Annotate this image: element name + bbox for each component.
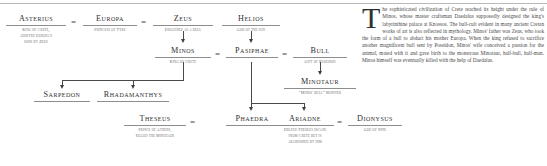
node-caption [34, 102, 90, 104]
marriage-symbol-europa-zeus: = [141, 18, 146, 27]
node-name: Dionysus [348, 115, 402, 125]
node-sarpedon: Sarpedon [34, 91, 90, 103]
node-phaedra: Phaedra [226, 115, 278, 127]
marriage-symbol-asterius-europa: = [71, 18, 76, 27]
node-caption [226, 126, 278, 128]
arrowhead-helios-pasiphae [249, 39, 253, 43]
node-caption: God of wine [348, 126, 402, 133]
node-name: Zeus [153, 15, 213, 25]
arrowhead-ariadne [302, 107, 306, 111]
sibling-bar-pasiphae-children [251, 103, 304, 104]
arrowhead-zeus-minos [181, 39, 185, 43]
node-pasiphae: Pasiphae [226, 47, 278, 59]
arrowhead-phaedra [249, 107, 253, 111]
node-europa: Europa Princess of Tyre [83, 15, 137, 33]
family-tree-diagram: Asterius King of Crete, adopted Europa's… [0, 0, 358, 166]
node-caption: Prince of Athens, killed the Minotaur [124, 126, 186, 139]
genealogy-figure: Asterius King of Crete, adopted Europa's… [0, 0, 547, 166]
node-dionysus: Dionysus God of wine [348, 115, 402, 133]
node-name: Phaedra [226, 115, 278, 125]
marriage-symbol-theseus-phaedra: = [190, 118, 195, 127]
node-name: Sarpedon [34, 91, 90, 101]
node-name: Minotaur [284, 78, 356, 88]
arrowhead-bull-minotaur [318, 71, 322, 75]
node-caption: “Minos' bull” monster [284, 89, 356, 96]
node-name: Minos [155, 47, 211, 57]
sibling-bar-minos-children [62, 80, 184, 81]
marriage-symbol-minos-pasiphae: = [215, 50, 220, 59]
link-pasiphae-down [251, 62, 252, 103]
body-paragraph: he sophisticated civilization of Crete r… [362, 6, 544, 64]
node-name: Pasiphae [226, 47, 278, 57]
link-minos-down [183, 62, 184, 80]
node-name: Theseus [124, 115, 186, 125]
node-name: Europa [83, 15, 137, 25]
node-caption: King of Crete, adopted Europa's sons by … [6, 26, 66, 45]
node-name: Bull [293, 47, 347, 57]
node-name: Rhadamanthys [97, 91, 169, 101]
node-theseus: Theseus Prince of Athens, killed the Min… [124, 115, 186, 139]
marriage-symbol-pasiphae-bull: = [282, 50, 287, 59]
node-asterius: Asterius King of Crete, adopted Europa's… [6, 15, 66, 45]
marriage-symbol-ariadne-dionysus: = [337, 118, 342, 127]
node-caption [97, 102, 169, 104]
node-minotaur: Minotaur “Minos' bull” monster [284, 78, 356, 96]
node-name: Asterius [6, 15, 66, 25]
node-name: Ariadne [276, 115, 334, 125]
arrowhead-rhadamanthys [131, 85, 135, 89]
node-caption: Helped Theseus escape from Crete but is … [276, 126, 334, 145]
body-text-column: T he sophisticated civilization of Crete… [362, 6, 544, 64]
arrowhead-sarpedon [60, 85, 64, 89]
node-ariadne: Ariadne Helped Theseus escape from Crete… [276, 115, 334, 145]
node-rhadamanthys: Rhadamanthys [97, 91, 169, 103]
node-name: Helios [222, 15, 280, 25]
node-caption [226, 58, 278, 60]
node-caption: Princess of Tyre [83, 26, 137, 33]
drop-cap: T [362, 6, 382, 29]
